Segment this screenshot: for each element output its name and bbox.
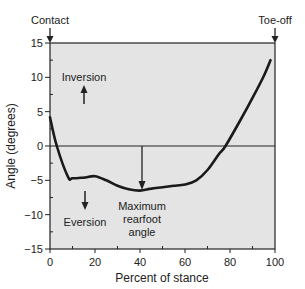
x-axis-title: Percent of stance (115, 271, 209, 285)
y-axis-title: Angle (degrees) (4, 103, 18, 188)
y-tick-label: 15 (31, 37, 43, 49)
contact-arrow-icon (47, 28, 54, 43)
y-tick-label: 5 (37, 106, 43, 118)
max-angle-label-line2: rearfoot (123, 213, 161, 225)
eversion-label: Eversion (64, 216, 107, 228)
inversion-label: Inversion (62, 71, 107, 83)
contact-label: Contact (31, 14, 69, 26)
x-tick-label: 100 (266, 256, 284, 268)
x-tick-label: 0 (47, 256, 53, 268)
x-tick-label: 80 (224, 256, 236, 268)
toe-off-label: Toe-off (258, 14, 292, 26)
y-tick-label: 0 (37, 140, 43, 152)
x-tick-label: 60 (179, 256, 191, 268)
rearfoot-angle-chart: 151050−5−10−15 020406080100 Contact Toe-… (0, 0, 305, 289)
max-angle-label-line1: Maximum (118, 200, 166, 212)
y-tick-label: −15 (24, 243, 43, 255)
toe-off-arrow-icon (272, 28, 279, 43)
max-angle-label-line3: angle (129, 226, 156, 238)
x-tick-label: 20 (89, 256, 101, 268)
y-tick-label: 10 (31, 71, 43, 83)
x-tick-label: 40 (134, 256, 146, 268)
y-tick-label: −10 (24, 209, 43, 221)
y-axis: 151050−5−10−15 (24, 37, 53, 255)
y-tick-label: −5 (30, 174, 43, 186)
